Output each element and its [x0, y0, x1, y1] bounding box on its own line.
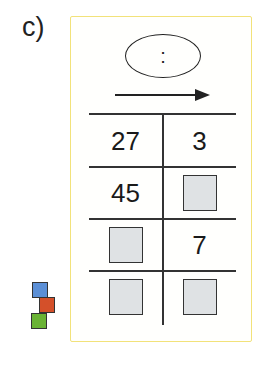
answer-box[interactable]	[109, 279, 143, 315]
exercise-label: c)	[22, 12, 45, 43]
green-cube-icon	[31, 313, 47, 329]
table-cell-r2-right[interactable]	[163, 167, 236, 219]
table-cell-r3-right: 7	[163, 219, 236, 271]
answer-box[interactable]	[183, 175, 217, 211]
answer-box[interactable]	[183, 279, 217, 315]
operator-symbol: :	[160, 46, 166, 66]
arrow-head-icon	[195, 89, 210, 101]
answer-box[interactable]	[109, 227, 143, 263]
table-cell-r1-right: 3	[163, 115, 236, 167]
table-cell-r4-left[interactable]	[89, 271, 162, 323]
operator-oval: :	[125, 34, 201, 78]
table-cell-r4-right[interactable]	[163, 271, 236, 323]
table-cell-r1-left: 27	[89, 115, 162, 167]
table-cell-r2-left: 45	[89, 167, 162, 219]
table-cell-r3-left[interactable]	[89, 219, 162, 271]
red-cube-icon	[39, 297, 55, 313]
arrow-right-icon	[115, 94, 197, 96]
blue-cube-icon	[32, 282, 48, 298]
